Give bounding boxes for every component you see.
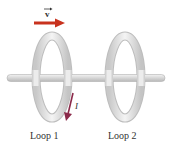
diagram-canvas <box>0 0 172 151</box>
loop-2-label: Loop 2 <box>108 130 137 141</box>
velocity-label: v <box>45 9 50 19</box>
loop-1-label: Loop 1 <box>30 130 59 141</box>
vector-bar-head <box>50 8 53 11</box>
velocity-arrow-icon <box>34 19 65 28</box>
current-label: I <box>75 101 78 111</box>
